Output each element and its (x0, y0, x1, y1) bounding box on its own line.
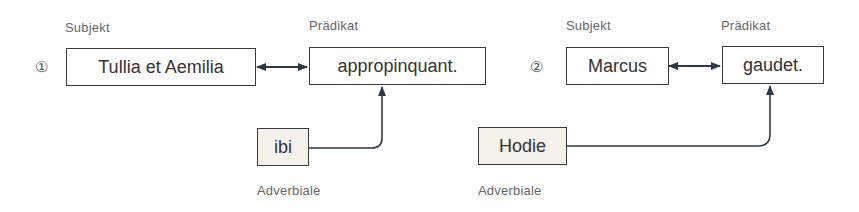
example-number-1: ① (35, 58, 48, 76)
adverbial-box-1: ibi (257, 128, 309, 166)
adverbial-label-2: Adverbiale (478, 183, 541, 198)
predicate-box-1: appropinquant. (309, 47, 486, 85)
subject-label-2: Subjekt (566, 18, 611, 33)
predicate-label-2: Prädikat (721, 18, 770, 33)
subject-box-2: Marcus (566, 47, 669, 85)
example-number-2: ② (530, 58, 543, 76)
predicate-box-2: gaudet. (722, 46, 824, 84)
subject-box-1: Tullia et Aemilia (66, 48, 256, 86)
adverbial-box-2: Hodie (478, 127, 567, 165)
adverbial-connector-2 (566, 86, 770, 146)
adverbial-label-1: Adverbiale (257, 183, 320, 198)
subject-label-1: Subjekt (65, 20, 110, 35)
predicate-label-1: Prädikat (309, 18, 358, 33)
adverbial-connector-1 (308, 87, 382, 148)
